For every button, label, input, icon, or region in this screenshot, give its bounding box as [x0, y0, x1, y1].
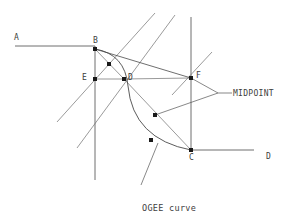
- midpoint-leader-lower: [155, 93, 218, 115]
- chord-D-F: [124, 78, 191, 79]
- point-label-C: C: [189, 153, 194, 162]
- point-marker-B: [93, 47, 97, 51]
- ogee-caption: OGEE curve unequal arcs: [142, 181, 219, 219]
- point-marker-M1: [107, 62, 111, 66]
- caption-leader: [141, 143, 158, 185]
- point-marker-M2: [153, 113, 157, 117]
- leader-lines-group: [141, 78, 232, 185]
- point-label-D2: D: [266, 152, 271, 161]
- point-marker-D: [122, 77, 126, 81]
- diagonal-upper-right-1: [57, 13, 155, 122]
- midpoint-annotation-label: MIDPOINT: [233, 89, 274, 98]
- point-label-A: A: [14, 33, 19, 42]
- point-label-E: E: [82, 73, 87, 82]
- point-label-F: F: [196, 71, 201, 80]
- caption-line-1: OGEE curve: [142, 203, 219, 214]
- ogee-curve-diagram: ABEDFCD MIDPOINT OGEE curve unequal arcs: [0, 0, 299, 219]
- point-marker-C: [189, 148, 193, 152]
- construction-lines-group: [15, 13, 254, 180]
- midpoint-leader-upper: [191, 78, 218, 93]
- point-label-D: D: [128, 73, 133, 82]
- point-marker-E: [93, 77, 97, 81]
- diagonal-short-near-F: [172, 52, 212, 95]
- chord-D-C: [124, 79, 191, 150]
- point-marker-M3: [149, 138, 153, 142]
- point-marker-F: [189, 76, 193, 80]
- point-label-B: B: [93, 36, 98, 45]
